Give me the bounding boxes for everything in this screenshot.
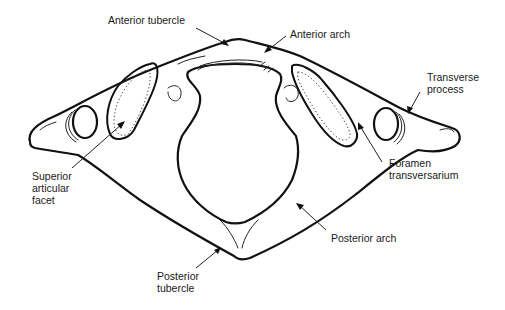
leader-transverse-process bbox=[410, 92, 420, 110]
label-anterior-arch: Anterior arch bbox=[290, 28, 350, 40]
atlas-drawing bbox=[0, 0, 505, 310]
label-posterior-tubercle: Posterior tubercle bbox=[157, 270, 199, 294]
label-anterior-tubercle: Anterior tubercle bbox=[108, 14, 185, 26]
right-foramen-transversarium bbox=[374, 108, 398, 140]
leader-anterior-tubercle bbox=[196, 28, 226, 44]
right-superior-articular-facet bbox=[292, 65, 357, 146]
label-transverse-process: Transverse process bbox=[427, 71, 479, 95]
leader-posterior-tubercle bbox=[196, 250, 218, 268]
label-foramen-transversarium: Foramen transversarium bbox=[389, 157, 458, 181]
left-foramen-transversarium bbox=[73, 106, 97, 138]
label-superior-articular-facet: Superior articular facet bbox=[32, 170, 72, 206]
leader-superior-articular-facet bbox=[72, 124, 122, 168]
right-ligament-tubercle bbox=[284, 85, 298, 101]
leader-foramen-transversarium bbox=[360, 126, 382, 162]
label-posterior-arch: Posterior arch bbox=[331, 232, 396, 244]
left-ligament-tubercle bbox=[168, 86, 181, 101]
vertebral-foramen-outline bbox=[178, 64, 298, 224]
atlas-vertebra-diagram: Anterior tubercle Anterior arch Transver… bbox=[0, 0, 505, 310]
